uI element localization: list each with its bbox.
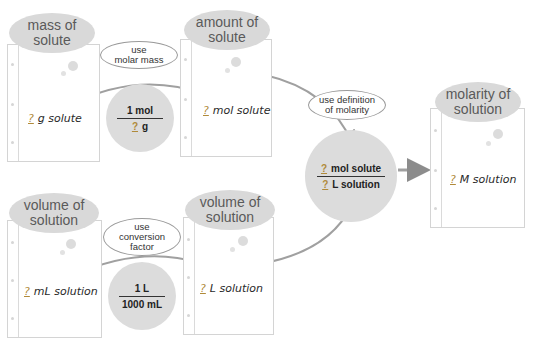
label-mass-of-solute: mass ofsolute [9, 13, 95, 53]
blank: ? [321, 163, 327, 174]
denominator: 1000 mL [118, 299, 166, 310]
decor-dot [231, 57, 241, 67]
numerator: 1 mol [123, 105, 157, 116]
hole [434, 207, 437, 210]
denominator: ?g [128, 121, 152, 132]
decor-dot [238, 236, 248, 246]
hole [187, 276, 190, 279]
label-line: solution [200, 210, 261, 225]
label-line: volume of [24, 198, 85, 213]
numerator: ?mol solute [317, 163, 385, 174]
molarity-value: ?M solution [450, 173, 516, 186]
label-line: mass of [27, 18, 76, 33]
decor-dot [66, 239, 76, 249]
numerator: 1 L [131, 283, 153, 294]
blank: ? [200, 282, 206, 295]
decor-dot [493, 129, 503, 139]
label-line: solute [27, 33, 76, 48]
step-line: of molarity [319, 105, 375, 115]
volume-ml-value: ?mL solution [24, 285, 98, 298]
fraction-bar [317, 176, 385, 177]
step-line: molar mass [114, 55, 163, 65]
fraction-bar [119, 296, 165, 297]
factor-volume-conversion: 1 L 1000 mL [108, 262, 176, 330]
margin-line [194, 218, 195, 334]
decor-dot [60, 250, 65, 255]
hole [11, 279, 14, 282]
hole [187, 238, 190, 241]
hole [184, 136, 187, 139]
label-line: amount of [196, 15, 258, 30]
value-text: mL solution [34, 285, 98, 298]
label-molarity-of-solution: molarity ofsolution [435, 82, 521, 122]
numerator-text: mol solute [331, 163, 381, 174]
box-amount-of-solute: ?mol solute [180, 39, 272, 157]
decor-dot [68, 61, 78, 71]
label-line: solution [24, 213, 85, 228]
hole [184, 58, 187, 61]
mass-value: ?g solute [28, 112, 82, 125]
hole [187, 314, 190, 317]
denominator-text: L solution [332, 179, 380, 190]
value-text: M solution [460, 173, 517, 186]
blank: ? [132, 121, 138, 132]
blank: ? [450, 173, 456, 186]
hole [184, 98, 187, 101]
label-line: molarity of [446, 87, 511, 102]
label-line: volume of [200, 195, 261, 210]
step-use-conversion-factor: useconversionfactor [103, 218, 181, 256]
value-text: g solute [38, 112, 82, 125]
hole [11, 317, 14, 320]
value-text: L solution [210, 282, 263, 295]
fraction-bar [117, 118, 163, 119]
volume-l-value: ?L solution [200, 282, 263, 295]
decor-dot [61, 71, 66, 76]
hole [434, 169, 437, 172]
box-molarity-of-solution: ?M solution [430, 108, 525, 228]
label-line: solution [446, 102, 511, 117]
hole [434, 129, 437, 132]
hole [11, 241, 14, 244]
amount-value: ?mol solute [203, 104, 270, 117]
margin-line [18, 45, 19, 161]
decor-dot [486, 141, 491, 146]
box-mass-of-solute: ?g solute [7, 44, 100, 162]
box-volume-ml: ?mL solution [7, 220, 102, 338]
factor-molarity-definition: ?mol solute ?L solution [305, 130, 397, 222]
blank: ? [322, 179, 328, 190]
decor-dot [230, 247, 235, 252]
box-volume-l: ?L solution [183, 217, 274, 335]
denominator: ?L solution [318, 179, 384, 190]
decor-dot [225, 68, 230, 73]
hole [11, 103, 14, 106]
step-line: factor [119, 242, 165, 252]
label-volume-l: volume ofsolution [185, 190, 275, 230]
step-use-definition-of-molarity: use definitionof molarity [308, 90, 386, 120]
label-line: solute [196, 30, 258, 45]
label-amount-of-solute: amount ofsolute [184, 10, 270, 50]
margin-line [191, 40, 192, 156]
blank: ? [28, 112, 34, 125]
blank: ? [203, 104, 209, 117]
step-use-molar-mass: usemolar mass [100, 41, 178, 69]
margin-line [441, 109, 442, 227]
margin-line [18, 221, 19, 337]
hole [11, 63, 14, 66]
label-volume-ml: volume ofsolution [9, 193, 99, 233]
hole [11, 141, 14, 144]
factor-molar-mass: 1 mol ?g [106, 84, 174, 152]
blank: ? [24, 285, 30, 298]
value-text: mol solute [213, 104, 271, 117]
denominator-text: g [142, 121, 148, 132]
